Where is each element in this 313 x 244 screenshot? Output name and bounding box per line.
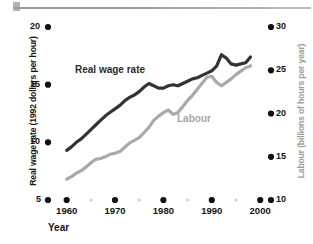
x-major-tick-dot [112,197,118,203]
x-tick-label-2000: 2000 [240,205,280,216]
x-axis-title: Year [48,222,69,233]
series-label-real-wage-rate: Real wage rate [75,64,145,75]
right-tick-label-25: 25 [276,64,286,74]
x-tick-label-1970: 1970 [95,205,135,216]
left-tick-label-5: 5 [36,194,41,204]
right-tick-dot [268,24,274,30]
series-label-labour: Labour [177,113,211,124]
right-tick-label-15: 15 [276,151,286,161]
x-minor-tick-dot [138,198,141,201]
right-tick-dot [268,67,274,73]
right-tick-dot [268,154,274,160]
right-axis-title: Labour (billions of hours per year) [296,16,306,206]
x-tick-label-1960: 1960 [47,205,87,216]
x-minor-tick-dot [234,198,237,201]
left-tick-dot [45,139,51,145]
left-tick-label-10: 10 [30,136,40,146]
x-tick-label-1990: 1990 [192,205,232,216]
x-major-tick-dot [160,197,166,203]
x-major-tick-dot [209,197,215,203]
right-tick-label-30: 30 [276,21,286,31]
x-major-tick-dot [64,197,70,203]
left-tick-dot [45,24,51,30]
right-tick-label-10: 10 [276,194,286,204]
left-tick-label-20: 20 [30,21,40,31]
right-tick-label-20: 20 [276,108,286,118]
right-tick-dot [268,197,274,203]
right-tick-dot [268,110,274,116]
x-tick-label-1980: 1980 [143,205,183,216]
left-tick-dot [45,82,51,88]
series-line-labour [67,66,251,179]
chart-figure: Real wage rate (1992 dollars per hour) L… [0,0,313,244]
x-major-tick-dot [257,197,263,203]
x-minor-tick-dot [186,198,189,201]
left-axis-title: Real wage rate (1992 dollars per hour) [28,16,38,206]
left-tick-label-15: 15 [30,79,40,89]
x-minor-tick-dot [89,198,92,201]
left-tick-dot [45,197,51,203]
